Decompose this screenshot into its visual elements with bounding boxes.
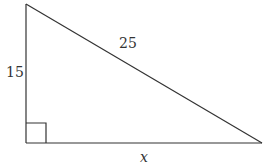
right-triangle-diagram: 15 25 x <box>0 0 264 165</box>
triangle-figure <box>0 0 264 165</box>
left-side-label: 15 <box>6 65 24 79</box>
hypotenuse <box>26 4 262 143</box>
bottom-side-label: x <box>140 150 148 164</box>
right-angle-marker <box>26 123 46 143</box>
hypotenuse-label: 25 <box>119 36 137 50</box>
